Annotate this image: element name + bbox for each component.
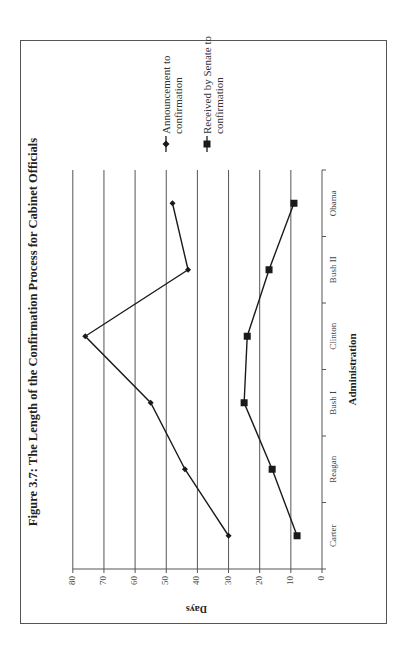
rotated-chart-canvas: Figure 3.7: The Length of the Confirmati… [20,40,387,624]
data-point-square [269,466,276,473]
y-axis-title: Days [186,604,207,615]
y-tick-label: 70 [98,576,108,596]
legend-label-line2: confirmation [172,55,184,134]
diamond-marker-icon [160,136,172,152]
y-tick-label: 50 [160,576,170,596]
data-point-square [244,333,251,340]
category-label: Reagan [328,456,338,483]
category-label: Carter [328,525,338,548]
y-tick-label: 60 [129,576,139,596]
y-tick-label: 20 [254,576,264,596]
y-tick-label: 30 [223,576,233,596]
legend-label-line1: Received by Senate to [201,36,213,134]
y-tick-label: 80 [67,576,77,596]
data-point-square [294,532,301,539]
y-tick-label: 40 [191,576,201,596]
data-point-diamond [169,200,175,206]
category-label: Obama [328,190,338,216]
legend-item-senate: Received by Senate to confirmation [201,36,225,152]
category-label: Bush II [328,256,338,283]
square-marker-icon [201,136,213,152]
data-point-square [266,266,273,273]
series-line-1 [244,203,297,536]
category-label: Bush I [328,391,338,415]
data-point-square [290,200,297,207]
data-point-square [241,399,248,406]
x-axis-title: Administration [346,333,358,405]
series-line-0 [85,203,228,536]
legend-label-line2: confirmation [213,36,225,134]
legend-item-announcement: Announcement to confirmation [160,55,184,152]
y-tick-label: 0 [316,576,326,596]
category-label: Clinton [328,323,338,350]
y-tick-label: 10 [285,576,295,596]
legend-label-line1: Announcement to [160,55,172,134]
